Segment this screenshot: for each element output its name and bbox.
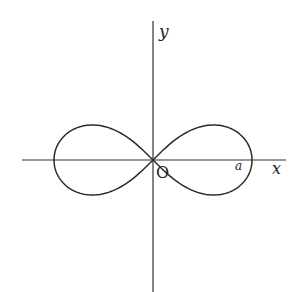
x-axis-label: x (272, 159, 281, 178)
lemniscate-diagram: y x O a (0, 0, 299, 292)
y-axis-label: y (158, 21, 169, 41)
origin-label: O (156, 163, 169, 182)
intercept-label-a: a (235, 159, 242, 173)
